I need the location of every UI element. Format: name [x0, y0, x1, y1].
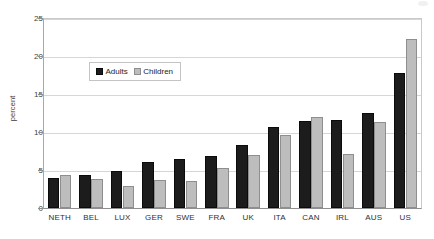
bar-group — [170, 18, 201, 208]
x-tick-label-uk: UK — [233, 213, 264, 222]
bar-adults-swe — [174, 159, 186, 208]
bar-group — [75, 18, 106, 208]
bar-adults-irl — [331, 120, 343, 208]
bar-children-swe — [186, 181, 198, 208]
bar-children-ita — [280, 135, 292, 208]
x-tick-label-lux: LUX — [107, 213, 138, 222]
bar-children-can — [311, 117, 323, 208]
x-tick-label-ita: ITA — [264, 213, 295, 222]
x-tick-label-ger: GER — [138, 213, 169, 222]
x-axis-tick-labels: NETHBELLUXGERSWEFRAUKITACANIRLAUSUS — [44, 213, 421, 235]
bar-chart: percent 0510152025 NETHBELLUXGERSWEFRAUK… — [0, 0, 434, 239]
bar-children-lux — [123, 186, 135, 208]
bar-group — [327, 18, 358, 208]
bar-children-us — [406, 39, 418, 208]
bar-children-irl — [343, 154, 355, 208]
legend-entry-children: Children — [134, 67, 173, 76]
chart-legend: Adults Children — [89, 62, 181, 81]
bar-group — [138, 18, 169, 208]
bar-group — [295, 18, 326, 208]
x-tick-label-fra: FRA — [201, 213, 232, 222]
bar-children-aus — [374, 122, 386, 208]
x-tick-label-bel: BEL — [75, 213, 106, 222]
bar-group — [264, 18, 295, 208]
bar-adults-aus — [362, 113, 374, 208]
scan-artifact — [418, 1, 428, 6]
bar-adults-can — [299, 121, 311, 208]
bar-group — [358, 18, 389, 208]
legend-entry-adults: Adults — [96, 67, 128, 76]
x-tick-label-neth: NETH — [44, 213, 75, 222]
bar-adults-us — [394, 73, 406, 208]
bar-children-neth — [60, 175, 72, 208]
x-tick-label-aus: AUS — [358, 213, 389, 222]
bar-adults-lux — [111, 171, 123, 208]
bar-adults-neth — [48, 178, 60, 208]
bars-layer — [44, 18, 421, 208]
bar-adults-ita — [268, 127, 280, 208]
bar-adults-uk — [236, 145, 248, 208]
bar-group — [390, 18, 421, 208]
x-tick-label-us: US — [390, 213, 421, 222]
bar-group — [233, 18, 264, 208]
bar-children-fra — [217, 168, 229, 208]
bar-group — [44, 18, 75, 208]
legend-label-children: Children — [143, 67, 173, 76]
bar-children-uk — [248, 155, 260, 208]
x-tick-label-swe: SWE — [170, 213, 201, 222]
legend-swatch-children-icon — [134, 68, 141, 75]
bar-group — [107, 18, 138, 208]
x-tick-label-irl: IRL — [327, 213, 358, 222]
bar-group — [201, 18, 232, 208]
legend-label-adults: Adults — [106, 67, 128, 76]
x-tick-label-can: CAN — [295, 213, 326, 222]
bar-children-ger — [154, 180, 166, 208]
bar-adults-ger — [142, 162, 154, 208]
legend-swatch-adults-icon — [96, 68, 103, 75]
y-axis-tick-labels: 0510152025 — [0, 18, 43, 209]
bar-adults-bel — [79, 175, 91, 208]
bar-children-bel — [91, 179, 103, 208]
bar-adults-fra — [205, 156, 217, 208]
